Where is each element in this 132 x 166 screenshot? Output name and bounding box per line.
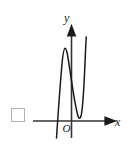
- origin-label: O: [63, 122, 71, 134]
- x-axis-label: x: [114, 115, 121, 129]
- math-figure-panel: x y O: [0, 0, 132, 166]
- coordinate-graph: x y O: [0, 0, 132, 166]
- y-axis-label: y: [63, 11, 70, 25]
